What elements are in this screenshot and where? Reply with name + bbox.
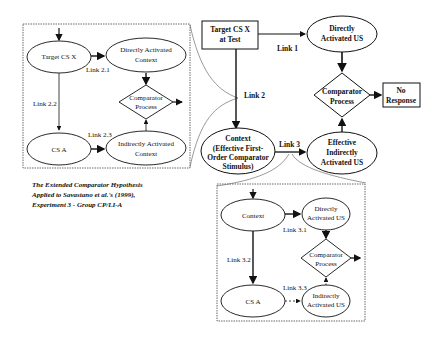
svg-text:Effective: Effective [328, 138, 357, 147]
svg-text:Process: Process [330, 97, 354, 106]
link-3-1-label: Link 3.1 [283, 226, 307, 234]
svg-text:(Effective First-: (Effective First- [213, 144, 264, 153]
link-3-label: Link 3 [279, 140, 300, 149]
svg-text:at Test: at Test [219, 35, 241, 44]
svg-text:Process: Process [315, 260, 337, 268]
svg-text:Order Comparator: Order Comparator [207, 153, 269, 162]
left-direct-ctx-line1: Directly Activated [120, 46, 172, 54]
svg-text:Response: Response [386, 96, 417, 105]
svg-text:Activated US: Activated US [307, 214, 345, 222]
svg-text:Indirectly: Indirectly [326, 148, 358, 157]
left-comparator-node [119, 85, 173, 119]
link-2-3-label: Link 2.3 [88, 131, 112, 139]
left-cs-a-label: CS A [52, 146, 67, 154]
left-direct-ctx-node [106, 38, 186, 72]
svg-text:No: No [396, 86, 405, 95]
link-3-2-label: Link 3.2 [227, 256, 251, 264]
svg-text:Process: Process [135, 103, 157, 111]
svg-text:Comparator: Comparator [322, 87, 363, 96]
svg-text:Activated US: Activated US [321, 158, 363, 167]
caption-line-3: Experiment 3 - Group CP/LI-A [31, 201, 123, 209]
right-context-label: Context [242, 212, 264, 220]
svg-text:Activated US: Activated US [321, 34, 363, 43]
left-direct-ctx-line2: Context [135, 56, 157, 64]
left-target-label: Target CS X [42, 53, 77, 61]
svg-text:Activated US: Activated US [307, 301, 345, 309]
svg-text:Directly: Directly [329, 24, 355, 33]
svg-text:Indirectly: Indirectly [312, 292, 340, 300]
svg-text:Context: Context [225, 134, 251, 143]
svg-text:Context: Context [135, 150, 157, 158]
left-indirect-ctx-node [106, 131, 186, 165]
caption-line-2: Applied to Savastano et al.'s (1999), [31, 191, 136, 199]
link-3-3-label: Link 3.3 [283, 284, 307, 292]
svg-text:Target CS X: Target CS X [210, 25, 250, 34]
svg-text:Stimulus): Stimulus) [223, 162, 254, 171]
svg-text:Indirectly Activated: Indirectly Activated [118, 140, 174, 148]
svg-text:Comparator: Comparator [309, 251, 343, 259]
svg-text:Comparator: Comparator [129, 94, 163, 102]
link-1-label: Link 1 [277, 44, 298, 53]
caption-line-1: The Extended Comparator Hypothesis [32, 181, 143, 189]
link-2-2-label: Link 2.2 [33, 100, 57, 108]
comparator-diagram: Target CS X Directly Activated Context L… [0, 0, 442, 341]
svg-text:Directly: Directly [315, 205, 338, 213]
link-2-label: Link 2 [244, 91, 265, 100]
link-2-1-label: Link 2.1 [86, 66, 110, 74]
right-cs-a-label: CS A [246, 298, 261, 306]
